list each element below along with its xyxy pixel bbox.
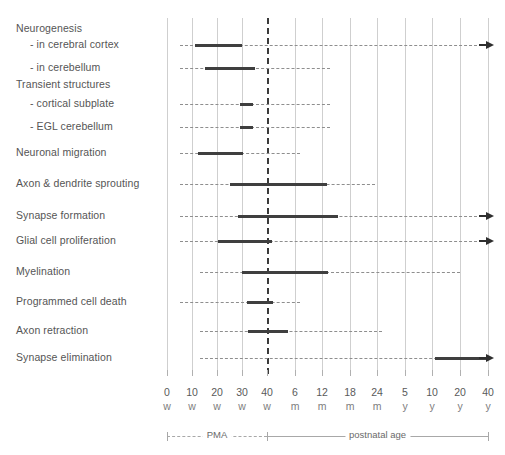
row-track [180, 302, 300, 303]
axis-tick-value: 0 [154, 386, 180, 398]
axis-tick [217, 370, 218, 376]
row-label: Myelination [16, 265, 70, 277]
timeline-bar [247, 301, 273, 304]
row-label: Transient structures [16, 78, 110, 90]
gridline-10w [192, 18, 193, 370]
gridline-20y [460, 18, 461, 370]
axis-tick-value: 12 [309, 386, 335, 398]
timeline-bar [205, 67, 255, 70]
axis-tick-value: 20 [447, 386, 473, 398]
axis-tick [167, 370, 168, 376]
row-label: - in cerebellum [30, 61, 100, 73]
axis-tick [295, 370, 296, 376]
axis-tick-unit: m [364, 400, 390, 412]
row-label: Programmed cell death [16, 295, 127, 307]
axis-tick-unit: y [475, 400, 501, 412]
axis-tick-unit: m [337, 400, 363, 412]
continues-arrow-icon [486, 354, 494, 362]
row-label: - cortical subplate [30, 97, 114, 109]
axis-tick-value: 40 [254, 386, 280, 398]
gridline-20w [217, 18, 218, 370]
axis-tick [192, 370, 193, 376]
row-label: - in cerebral cortex [30, 38, 119, 50]
axis-tick-value: 10 [419, 386, 445, 398]
row-label: Axon & dendrite sprouting [16, 177, 139, 189]
axis-tick-value: 5 [392, 386, 418, 398]
timeline-bar [238, 215, 338, 218]
row-track [180, 104, 330, 105]
axis-tick [267, 370, 268, 376]
axis-tick [460, 370, 461, 376]
axis-tick-value: 20 [204, 386, 230, 398]
axis-tick-unit: y [392, 400, 418, 412]
axis-tick-unit: m [282, 400, 308, 412]
timeline-bar [230, 183, 327, 186]
timeline-bar [218, 240, 272, 243]
period-end-cap [267, 432, 268, 441]
timeline-bar [198, 152, 243, 155]
row-track [200, 272, 460, 273]
axis-tick-value: 6 [282, 386, 308, 398]
row-track [180, 68, 330, 69]
timeline-bar [195, 44, 242, 47]
gridline-30w [242, 18, 243, 370]
row-label: Axon retraction [16, 324, 88, 336]
axis-tick-unit: w [254, 400, 280, 412]
row-label: Glial cell proliferation [16, 234, 116, 246]
gridline-5y [405, 18, 406, 370]
period-end-cap [167, 432, 168, 441]
gridline-term-40w [267, 18, 269, 374]
axis-tick [432, 370, 433, 376]
timeline-bar [240, 103, 253, 106]
axis-tick-unit: m [309, 400, 335, 412]
timeline-bar [242, 271, 328, 274]
axis-tick-value: 30 [229, 386, 255, 398]
row-label: Neurogenesis [16, 22, 82, 34]
axis-tick [350, 370, 351, 376]
timeline-bar [240, 126, 253, 129]
period-end-cap [488, 432, 489, 441]
row-label: - EGL cerebellum [30, 120, 113, 132]
axis-tick [377, 370, 378, 376]
axis-tick-value: 10 [179, 386, 205, 398]
axis-tick-unit: w [229, 400, 255, 412]
axis-tick [488, 370, 489, 376]
axis-tick-value: 18 [337, 386, 363, 398]
gridline-6m [295, 18, 296, 370]
gridline-18m [350, 18, 351, 370]
axis-tick [242, 370, 243, 376]
period-label: postnatal age [345, 429, 410, 440]
continues-arrow-icon [486, 212, 494, 220]
continues-arrow-icon [486, 41, 494, 49]
axis-tick [405, 370, 406, 376]
row-track [180, 127, 330, 128]
row-label: Neuronal migration [16, 146, 107, 158]
axis-tick-unit: y [419, 400, 445, 412]
gridline-10y [432, 18, 433, 370]
row-label: Synapse elimination [16, 351, 112, 363]
axis-tick-unit: y [447, 400, 473, 412]
gridline-0w [167, 18, 168, 370]
gridline-40y [488, 18, 489, 370]
row-label: Synapse formation [16, 209, 105, 221]
gridline-12m [322, 18, 323, 370]
axis-tick-unit: w [154, 400, 180, 412]
gridline-24m [377, 18, 378, 370]
continues-arrow-icon [486, 237, 494, 245]
developmental-timeline-chart: Neurogenesis- in cerebral cortex- in cer… [0, 0, 505, 455]
timeline-bar [248, 330, 288, 333]
axis-tick [322, 370, 323, 376]
period-label: PMA [203, 429, 232, 440]
row-track [200, 331, 382, 332]
axis-tick-unit: w [204, 400, 230, 412]
axis-tick-value: 24 [364, 386, 390, 398]
axis-tick-unit: w [179, 400, 205, 412]
axis-tick-value: 40 [475, 386, 501, 398]
